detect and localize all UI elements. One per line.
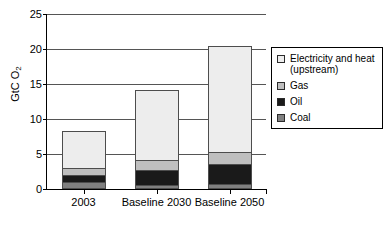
bar-group[interactable]: 2003	[62, 14, 106, 189]
legend-item[interactable]: Coal	[277, 112, 378, 123]
x-axis-end-tick-mark	[266, 189, 267, 194]
legend-label: Gas	[290, 80, 308, 91]
bar-segment-coal[interactable]	[62, 182, 106, 189]
bar-group[interactable]: Baseline 2030	[135, 14, 179, 189]
y-axis-tick-label: 0	[36, 183, 42, 195]
bar-segment-gas[interactable]	[208, 152, 252, 165]
legend-item[interactable]: Electricity and heat(upstream)	[277, 53, 378, 75]
bar-segment-oil[interactable]	[135, 170, 179, 186]
bar-segment-electricity[interactable]	[135, 90, 179, 161]
y-axis-tick-label: 25	[30, 8, 42, 20]
stacked-bar[interactable]	[62, 131, 106, 189]
legend-item[interactable]: Oil	[277, 96, 378, 107]
x-axis-tick-mark	[230, 189, 231, 194]
y-axis-tick-label: 20	[30, 43, 42, 55]
y-axis-title-subscript: 2	[14, 66, 23, 70]
stacked-bar[interactable]	[135, 90, 179, 189]
bar-segment-oil[interactable]	[208, 164, 252, 185]
bar-segment-electricity[interactable]	[62, 131, 106, 169]
y-axis-tick-mark	[43, 49, 47, 50]
legend-label: Coal	[290, 112, 311, 123]
y-axis-tick-mark	[43, 154, 47, 155]
y-axis-tick-label: 15	[30, 78, 42, 90]
bar-segment-electricity[interactable]	[208, 46, 252, 152]
x-axis-tick-label: Baseline 2050	[195, 196, 265, 208]
y-axis-title: GtC O2	[9, 44, 21, 124]
x-axis-tick-label: Baseline 2030	[122, 196, 192, 208]
legend-item[interactable]: Gas	[277, 80, 378, 91]
x-axis-tick-mark	[157, 189, 158, 194]
y-axis-title-text: GtC O	[9, 71, 21, 102]
x-axis-tick-mark	[84, 189, 85, 194]
y-axis-tick-mark	[43, 119, 47, 120]
y-axis-tick-label: 5	[36, 148, 42, 160]
legend-label: Oil	[290, 96, 302, 107]
stacked-bar[interactable]	[208, 46, 252, 189]
chart-figure: GtC O2 05101520252003Baseline 2030Baseli…	[0, 0, 388, 228]
bar-group[interactable]: Baseline 2050	[208, 14, 252, 189]
legend-label: Electricity and heat(upstream)	[290, 53, 375, 75]
y-axis-tick-mark	[43, 189, 47, 190]
legend-swatch-icon	[277, 55, 285, 63]
y-axis-tick-mark	[43, 84, 47, 85]
y-axis-tick-mark	[43, 14, 47, 15]
legend-swatch-icon	[277, 114, 285, 122]
legend-swatch-icon	[277, 82, 285, 90]
y-axis-tick-label: 10	[30, 113, 42, 125]
chart-legend: Electricity and heat(upstream)GasOilCoal	[271, 47, 383, 129]
plot-area: 05101520252003Baseline 2030Baseline 2050	[46, 14, 266, 190]
legend-swatch-icon	[277, 98, 285, 106]
x-axis-tick-label: 2003	[71, 196, 95, 208]
